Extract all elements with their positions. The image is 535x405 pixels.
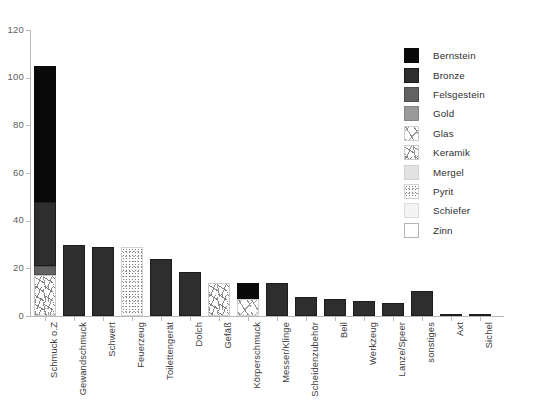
y-tick-mark [26,173,31,174]
schiefer-swatch [404,203,419,218]
y-tick-label: 60 [0,168,24,178]
x-label-messer-klinge: Messer/Klinge [281,322,291,383]
bar-segment-bronze [150,259,172,316]
x-tick-mark [132,317,133,321]
x-label-k-rperschmuck: Körperschmuck [252,322,262,389]
bar-gewandschmuck[interactable] [63,245,85,317]
bar-beil[interactable] [324,299,346,316]
y-tick-mark [26,125,31,126]
bar-segment-keramik [208,283,230,316]
legend-item-mergel[interactable]: Mergel [404,162,532,181]
pyrit-swatch [404,184,419,199]
bar-segment-bronze [411,291,433,316]
x-label-gewandschmuck: Gewandschmuck [78,322,88,395]
bar-segment-glas [237,299,259,316]
y-tick-mark [26,268,31,269]
y-tick-label: 20 [0,263,24,273]
bar-segment-bronze [179,272,201,316]
legend-item-label: Schiefer [433,205,470,216]
bar-schwert[interactable] [92,247,114,316]
x-tick-mark [277,317,278,321]
x-label-gef: Gefäß [223,322,233,349]
bar-segment-pyrit [121,247,143,316]
y-axis-tick-labels: 020406080100120 [0,0,24,405]
bar-segment-bronze [382,303,404,316]
x-label-sichel: Sichel [484,322,494,348]
bernstein-swatch [404,48,419,63]
legend-item-label: Glas [433,128,454,139]
legend-item-label: Gold [433,108,454,119]
y-tick-mark [26,221,31,222]
legend-item-label: Mergel [433,167,464,178]
legend-item-label: Pyrit [433,186,453,197]
legend-item-keramik[interactable]: Keramik [404,143,532,162]
x-label-toilettenger-t: Toilettengerät [165,322,175,380]
legend-item-gold[interactable]: Gold [404,104,532,123]
bar-messer-klinge[interactable] [266,283,288,316]
legend-item-label: Zinn [433,225,453,236]
x-label-scheidenzubeh-r: Scheidenzubehör [310,322,320,397]
x-label-schmuck-o-z: Schmuck o.Z [49,322,59,378]
x-label-sonstiges: sonstiges [426,322,436,363]
x-tick-mark [190,317,191,321]
x-tick-mark [161,317,162,321]
legend-item-bronze[interactable]: Bronze [404,65,532,84]
felsgestein-swatch [404,87,419,102]
x-tick-mark [335,317,336,321]
legend-item-bernstein[interactable]: Bernstein [404,46,532,65]
x-tick-mark [306,317,307,321]
bar-segment-bronze [353,301,375,316]
mergel-swatch [404,165,419,180]
y-tick-label: 40 [0,215,24,225]
legend-item-label: Felsgestein [433,89,485,100]
legend-item-label: Bronze [433,70,465,81]
x-tick-mark [74,317,75,321]
bar-segment-keramik [34,275,56,316]
x-tick-mark [364,317,365,321]
bar-gef[interactable] [208,283,230,316]
bar-segment-bronze [324,299,346,316]
bar-axt[interactable] [440,314,462,316]
legend-item-schiefer[interactable]: Schiefer [404,201,532,220]
bar-segment-bronze [63,245,85,317]
x-label-werkzeug: Werkzeug [368,322,378,365]
bar-scheidenzubeh-r[interactable] [295,297,317,316]
legend-item-zinn[interactable]: Zinn [404,221,532,240]
bronze-swatch [404,68,419,83]
x-tick-mark [248,317,249,321]
legend-item-felsgestein[interactable]: Felsgestein [404,85,532,104]
legend-item-glas[interactable]: Glas [404,124,532,143]
bar-toilettenger-t[interactable] [150,259,172,316]
chart-legend: BernsteinBronzeFelsgesteinGoldGlasKerami… [404,46,532,240]
bar-k-rperschmuck[interactable] [237,283,259,316]
legend-item-label: Bernstein [433,50,476,61]
bar-segment-bronze [440,314,462,316]
bar-feuerzeug[interactable] [121,247,143,316]
bar-segment-bronze [92,247,114,316]
bar-sichel[interactable] [469,314,491,316]
bar-segment-bernstein [237,283,259,300]
bar-segment-bronze [469,314,491,316]
stacked-bar-chart: 020406080100120 Schmuck o.ZGewandschmuck… [0,0,535,405]
bar-sonstiges[interactable] [411,291,433,316]
bar-werkzeug[interactable] [353,301,375,316]
x-tick-mark [451,317,452,321]
x-tick-mark [480,317,481,321]
y-tick-label: 120 [0,25,24,35]
x-tick-mark [422,317,423,321]
x-label-schwert: Schwert [107,322,117,357]
x-axis-line [30,316,504,317]
y-tick-mark [26,30,31,31]
y-tick-label: 0 [0,311,24,321]
bar-schmuck-o-z[interactable] [34,66,56,316]
keramik-swatch [404,145,419,160]
bar-lanze-speer[interactable] [382,303,404,316]
legend-item-pyrit[interactable]: Pyrit [404,182,532,201]
bar-segment-bernstein [34,66,56,202]
bar-segment-bronze [34,202,56,266]
bar-segment-bronze [295,297,317,316]
x-tick-mark [45,317,46,321]
gold-swatch [404,106,419,121]
bar-dolch[interactable] [179,272,201,316]
x-tick-mark [393,317,394,321]
